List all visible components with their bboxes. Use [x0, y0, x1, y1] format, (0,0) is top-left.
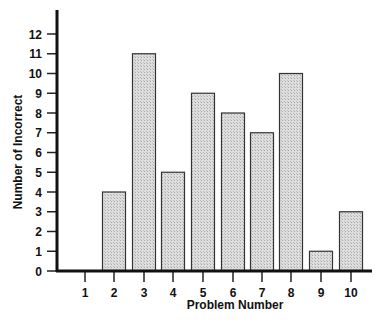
y-tick-label: 7 — [35, 126, 42, 140]
x-tick-label: 4 — [170, 286, 177, 300]
bar-problem-6 — [222, 113, 245, 271]
bar-chart: 0123456789101112 12345678910 Problem Num… — [0, 0, 382, 323]
y-tick-label: 9 — [35, 87, 42, 101]
bar-problem-7 — [251, 133, 274, 271]
bar-problem-9 — [310, 251, 333, 271]
y-tick-label: 0 — [35, 265, 42, 279]
x-tick-label: 1 — [82, 286, 89, 300]
x-tick-label: 8 — [288, 286, 295, 300]
x-tick-label: 3 — [141, 286, 148, 300]
x-tick-label: 9 — [318, 286, 325, 300]
bar-problem-2 — [103, 192, 126, 271]
y-tick-label: 11 — [29, 47, 42, 61]
x-tick-label: 10 — [344, 286, 358, 300]
y-tick-label: 5 — [35, 166, 42, 180]
y-tick-label: 2 — [35, 225, 42, 239]
y-tick-label: 10 — [29, 67, 43, 81]
y-axis-title: Number of Incorrect — [11, 95, 25, 210]
y-tick-label: 4 — [35, 186, 42, 200]
x-axis-title: Problem Number — [187, 298, 284, 312]
bar-problem-8 — [280, 74, 303, 272]
bar-problem-4 — [162, 172, 185, 271]
bar-problem-10 — [340, 212, 363, 271]
y-tick-label: 1 — [35, 245, 42, 259]
bars — [103, 54, 363, 271]
bar-problem-5 — [192, 93, 215, 271]
bar-problem-3 — [133, 54, 156, 271]
y-tick-label: 6 — [35, 146, 42, 160]
x-tick-label: 2 — [111, 286, 118, 300]
y-axis-ticks: 0123456789101112 — [29, 28, 57, 279]
y-tick-label: 3 — [35, 205, 42, 219]
y-tick-label: 8 — [35, 107, 42, 121]
y-tick-label: 12 — [29, 28, 43, 42]
x-axis-ticks: 12345678910 — [82, 271, 358, 300]
